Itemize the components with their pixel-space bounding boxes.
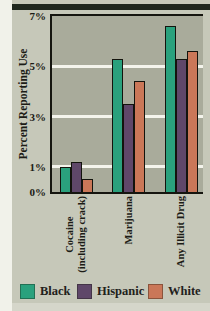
y-tick-label-3: 3%	[18, 110, 46, 124]
bar-white-0	[82, 179, 93, 192]
category-label-text: Any Illicit Drug	[175, 196, 187, 267]
legend-label: Hispanic	[97, 284, 144, 299]
bar-white-1	[134, 81, 145, 192]
bar-black-0	[60, 167, 71, 192]
figure-bottom-edge	[12, 303, 210, 311]
category-label-text: Marijuana	[122, 196, 134, 244]
legend-swatch-hispanic	[77, 284, 92, 299]
legend-label: Black	[40, 284, 71, 299]
category-label-2: Any Illicit Drug	[175, 196, 187, 267]
bar-hispanic-1	[123, 104, 134, 192]
figure-stage: Percent Reporting Use 7%5%3%1%0% Cocaine…	[0, 0, 210, 311]
legend-item-black: Black	[20, 284, 71, 299]
legend-item-hispanic: Hispanic	[77, 284, 144, 299]
plot-area	[50, 14, 203, 194]
bar-hispanic-2	[176, 59, 187, 192]
legend-item-white: White	[148, 284, 201, 299]
bar-white-2	[187, 51, 198, 192]
category-label-text: Cocaine(including crack)	[64, 196, 88, 273]
bar-black-1	[112, 59, 123, 192]
bar-hispanic-0	[71, 162, 82, 192]
category-label-0: Cocaine(including crack)	[64, 196, 88, 273]
y-tick-label-0: 0%	[18, 185, 46, 199]
legend-swatch-black	[20, 284, 35, 299]
bar-black-2	[165, 26, 176, 192]
legend-swatch-white	[148, 284, 163, 299]
y-tick-label-7: 7%	[18, 9, 46, 23]
y-tick-label-5: 5%	[18, 59, 46, 73]
legend: BlackHispanicWhite	[12, 284, 210, 302]
legend-label: White	[168, 284, 201, 299]
category-label-1: Marijuana	[122, 196, 134, 244]
y-tick-label-1: 1%	[18, 160, 46, 174]
